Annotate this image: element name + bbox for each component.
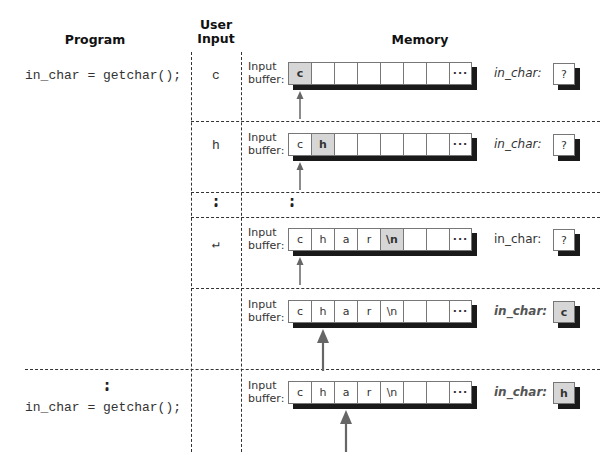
in-char-label: in_char: — [494, 304, 547, 318]
in-char-label: in_char: — [494, 232, 541, 246]
buffer-cell: \n — [380, 228, 403, 251]
input-buffer-label: Inputbuffer: — [248, 226, 284, 252]
buffer-cell — [403, 228, 426, 251]
buffer-cell: c — [288, 300, 311, 323]
buffer-cell — [380, 133, 403, 156]
input-buffer-label-line2: buffer: — [248, 73, 284, 86]
buffer-cell: ··· — [449, 381, 472, 404]
in-char-value: c — [553, 301, 575, 323]
buffer-cell: r — [357, 381, 380, 404]
memory-ellipsis: :· — [287, 199, 297, 209]
buffer-cell: c — [288, 228, 311, 251]
input-buffer-label-line1: Input — [248, 379, 284, 392]
buffer-cell: ··· — [449, 133, 472, 156]
buffer-cell: c — [288, 381, 311, 404]
input-buffer-label-line1: Input — [248, 131, 284, 144]
header-program: Program — [40, 32, 150, 47]
in-char-box: h — [553, 382, 575, 404]
row-divider-4 — [191, 288, 600, 289]
buffer-cell — [426, 62, 449, 85]
row-divider-2 — [191, 192, 600, 193]
program-statement-1: in_char = getchar(); — [25, 68, 181, 83]
buffer-cell: r — [357, 300, 380, 323]
user-input-1: c — [191, 68, 241, 83]
input-buffer-label-line1: Input — [248, 226, 284, 239]
user-input-enter: ↵ — [191, 236, 241, 252]
read-pointer-arrow-icon — [336, 410, 356, 454]
buffer-cell: h — [311, 300, 334, 323]
in-char-box: c — [553, 301, 575, 323]
input-buffer: char\n··· — [288, 228, 473, 251]
buffer-cell — [403, 62, 426, 85]
buffer-cell — [357, 62, 380, 85]
read-pointer-arrow-icon — [290, 91, 310, 121]
in-char-box: ? — [553, 134, 575, 156]
read-pointer-arrow-icon — [290, 257, 310, 287]
in-char-label: in_char: — [494, 137, 541, 151]
input-buffer-label-line1: Input — [248, 298, 284, 311]
buffer-cell — [426, 133, 449, 156]
divider-program-input — [191, 52, 192, 452]
buffer-cell: ··· — [449, 228, 472, 251]
row-divider-1 — [191, 121, 600, 122]
row-divider-3 — [191, 217, 600, 218]
read-pointer-arrow-icon — [313, 329, 333, 373]
in-char-value: ? — [553, 63, 575, 85]
input-buffer: ch··· — [288, 133, 473, 156]
buffer-cell — [334, 62, 357, 85]
program-ellipsis: :· — [102, 383, 112, 393]
in-char-value: h — [553, 382, 575, 404]
buffer-cell: a — [334, 381, 357, 404]
buffer-cell: r — [357, 228, 380, 251]
input-buffer: c··· — [288, 62, 473, 85]
buffer-cell: h — [311, 381, 334, 404]
in-char-value: ? — [553, 134, 575, 156]
buffer-cell: c — [288, 133, 311, 156]
buffer-cell: a — [334, 300, 357, 323]
user-input-ellipsis: :· — [211, 199, 221, 209]
buffer-cell: a — [334, 228, 357, 251]
buffer-cell: c — [288, 62, 311, 85]
input-buffer-label-line2: buffer: — [248, 311, 284, 324]
header-user-input-line2: Input — [186, 32, 246, 46]
in-char-box: ? — [553, 229, 575, 251]
buffer-cell — [334, 133, 357, 156]
buffer-cell — [426, 228, 449, 251]
buffer-cell: ··· — [449, 300, 472, 323]
header-user-input-line1: User — [186, 18, 246, 32]
input-buffer-label-line1: Input — [248, 60, 284, 73]
buffer-cell — [403, 133, 426, 156]
buffer-cell: \n — [380, 300, 403, 323]
buffer-cell: \n — [380, 381, 403, 404]
buffer-cell — [403, 381, 426, 404]
buffer-cell — [426, 381, 449, 404]
input-buffer-label: Inputbuffer: — [248, 131, 284, 157]
in-char-value: ? — [553, 229, 575, 251]
buffer-cell — [403, 300, 426, 323]
input-buffer-label: Inputbuffer: — [248, 379, 284, 405]
header-user-input: User Input — [186, 18, 246, 46]
input-buffer: char\n··· — [288, 381, 473, 404]
buffer-cell: ··· — [449, 62, 472, 85]
in-char-box: ? — [553, 63, 575, 85]
in-char-label: in_char: — [494, 385, 547, 399]
buffer-cell — [311, 62, 334, 85]
buffer-cell — [380, 62, 403, 85]
input-buffer-label-line2: buffer: — [248, 239, 284, 252]
program-statement-2: in_char = getchar(); — [25, 400, 181, 415]
input-buffer-label: Inputbuffer: — [248, 60, 284, 86]
buffer-cell: h — [311, 228, 334, 251]
read-pointer-arrow-icon — [290, 162, 310, 192]
buffer-cell — [426, 300, 449, 323]
input-buffer: char\n··· — [288, 300, 473, 323]
in-char-label: in_char: — [494, 66, 541, 80]
buffer-cell — [357, 133, 380, 156]
buffer-cell: h — [311, 133, 334, 156]
divider-input-memory — [241, 52, 242, 452]
input-buffer-label-line2: buffer: — [248, 144, 284, 157]
header-memory: Memory — [360, 32, 480, 47]
input-buffer-label-line2: buffer: — [248, 392, 284, 405]
input-buffer-label: Inputbuffer: — [248, 298, 284, 324]
user-input-2: h — [191, 138, 241, 153]
